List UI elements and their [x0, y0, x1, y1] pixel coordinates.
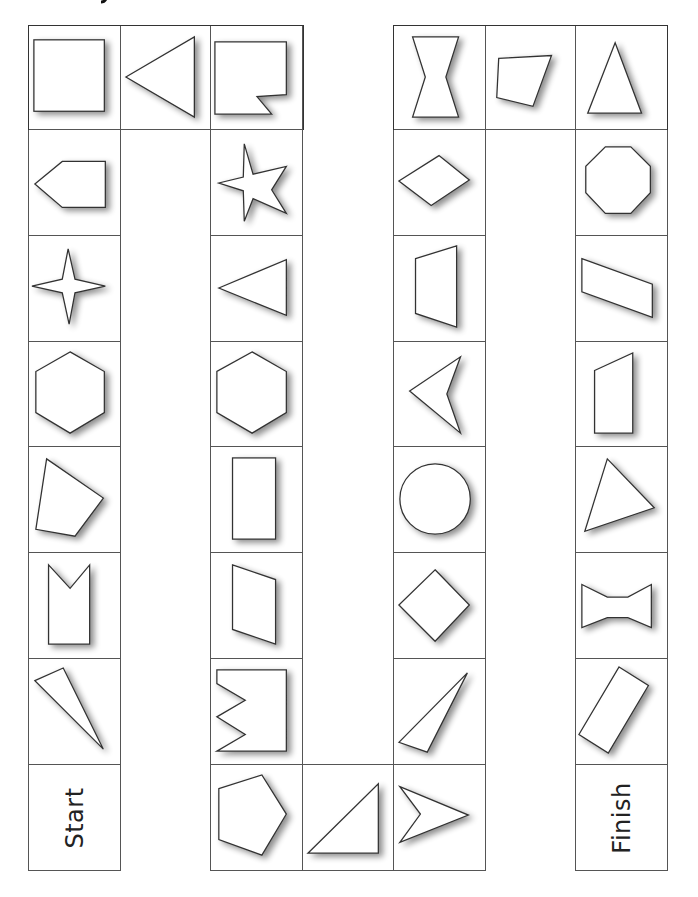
start-label: Start — [60, 787, 88, 848]
rhombus-icon — [399, 156, 469, 206]
board-cell-step-20 — [393, 552, 486, 659]
board-cell-step-25 — [393, 25, 486, 130]
board-cell-step-2 — [28, 552, 121, 659]
board-cell-step-26 — [485, 25, 576, 130]
board-cell-step-24 — [393, 129, 486, 236]
board-cell-step-5 — [28, 235, 121, 342]
trapezoid-icon — [416, 246, 457, 327]
board-cell-step-31 — [575, 446, 668, 553]
finish-label: Finish — [607, 782, 635, 853]
pentagon-arrow-icon — [35, 161, 105, 207]
irregular-quadrilateral-icon — [497, 55, 552, 106]
four-point-star-icon — [32, 249, 105, 324]
hexagon-icon — [36, 352, 104, 433]
finish-cell[interactable]: Finish — [575, 764, 668, 871]
board-cell-step-18 — [393, 764, 486, 871]
triangle-icon — [585, 459, 654, 531]
notched-square-icon — [215, 42, 286, 114]
five-point-star-icon — [219, 144, 287, 221]
square-shape-icon — [34, 40, 104, 111]
pentagon-icon — [219, 775, 287, 855]
board-cell-step-11 — [210, 235, 303, 342]
square-diamond-icon — [399, 570, 469, 641]
hexagon-icon — [217, 352, 286, 433]
board-cell-step-14 — [210, 552, 303, 659]
hourglass-icon — [413, 37, 459, 117]
thin-triangle-icon — [35, 668, 103, 749]
board-cell-step-21 — [393, 446, 486, 553]
board-cell-step-22 — [393, 341, 486, 447]
board-cell-step-10 — [210, 129, 303, 236]
board-cell-step-9 — [210, 25, 303, 130]
arrowhead-right-icon — [400, 787, 468, 843]
circle-icon — [400, 464, 470, 534]
board-cell-step-3 — [28, 446, 121, 553]
triangle-left-icon — [126, 37, 194, 117]
arrow-notched-rectangle-icon — [49, 565, 90, 644]
board-cell-step-28 — [575, 129, 668, 236]
board-cell-step-33 — [575, 658, 668, 765]
bowtie-icon — [582, 584, 651, 627]
board-cell-step-29 — [575, 235, 668, 342]
isosceles-triangle-icon — [588, 43, 642, 113]
board-cell-step-19 — [393, 658, 486, 765]
rotated-rectangle-icon — [579, 667, 648, 753]
board-cell-step-30 — [575, 341, 668, 447]
board-cell-step-1 — [28, 658, 121, 765]
zigzag-rectangle-icon — [217, 670, 286, 751]
right-triangle-icon — [308, 784, 378, 853]
slanted-parallelogram-icon — [582, 259, 652, 318]
right-trapezoid-icon — [595, 353, 633, 433]
scalene-triangle-icon — [399, 673, 467, 752]
board-cell-step-4 — [28, 341, 121, 447]
board-cell-step-27 — [575, 25, 668, 130]
board-cell-step-6 — [28, 129, 121, 236]
board-cell-step-15 — [210, 658, 303, 765]
board-cell-step-7 — [28, 25, 121, 130]
arrowhead-left-icon — [410, 357, 461, 433]
board-cell-step-23 — [393, 235, 486, 342]
triangle-left-icon — [219, 260, 287, 316]
parallelogram-icon — [233, 565, 276, 644]
rectangle-icon — [233, 458, 276, 539]
board-cell-step-17 — [302, 764, 394, 871]
start-cell[interactable]: Start — [28, 764, 121, 871]
octagon-icon — [586, 147, 651, 214]
board-cell-step-8 — [120, 25, 211, 130]
irregular-quadrilateral-icon — [36, 459, 104, 536]
board-cell-step-16 — [210, 764, 303, 871]
title-fragment — [100, 0, 114, 4]
board-cell-step-32 — [575, 552, 668, 659]
board-cell-step-13 — [210, 446, 303, 553]
board-cell-step-12 — [210, 341, 303, 447]
